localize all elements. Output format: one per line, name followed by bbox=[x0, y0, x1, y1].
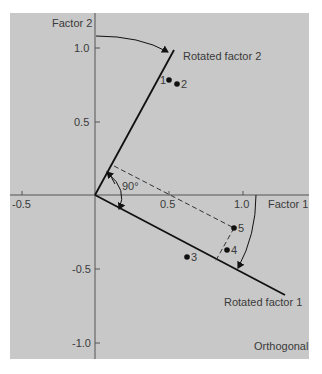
point-label-4: 4 bbox=[231, 244, 237, 256]
data-point-2 bbox=[174, 81, 180, 87]
projection-line-factor2 bbox=[114, 166, 234, 228]
y-tick-label: -0.5 bbox=[72, 263, 91, 275]
rotation-arc-top bbox=[96, 36, 168, 52]
data-point-5 bbox=[231, 225, 237, 231]
y-tick-label: 1.0 bbox=[74, 42, 89, 54]
y-tick-label: 0.5 bbox=[74, 116, 89, 128]
x-axis-label: Factor 1 bbox=[268, 198, 308, 210]
point-label-5: 5 bbox=[238, 222, 244, 234]
x-tick-label: 1.0 bbox=[234, 198, 249, 210]
x-tick-label: 0.5 bbox=[160, 198, 175, 210]
rotation-type-label: Orthogonal bbox=[254, 340, 308, 352]
point-label-2: 2 bbox=[181, 78, 187, 90]
rotated-factor-2-axis bbox=[95, 50, 174, 195]
point-label-1: 1 bbox=[160, 74, 166, 86]
factor-rotation-diagram: -0.5 0.5 1.0 1.0 0.5 -0.5 -1.0 Factor 2 … bbox=[0, 0, 322, 374]
y-tick-label: -1.0 bbox=[72, 337, 91, 349]
data-point-4 bbox=[224, 247, 230, 253]
rotated-factor-1-axis bbox=[95, 195, 285, 295]
angle-label: 90° bbox=[122, 180, 139, 192]
data-point-1 bbox=[166, 77, 172, 83]
rotated-factor-1-label: Rotated factor 1 bbox=[224, 296, 302, 308]
x-tick-label: -0.5 bbox=[12, 198, 31, 210]
y-axis-label: Factor 2 bbox=[52, 17, 92, 29]
point-label-3: 3 bbox=[191, 251, 197, 263]
rotated-factor-2-label: Rotated factor 2 bbox=[183, 50, 261, 62]
data-point-3 bbox=[184, 254, 190, 260]
